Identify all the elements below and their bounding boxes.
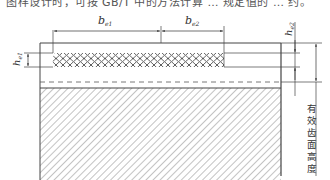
label-he2: he2 — [283, 22, 295, 36]
label-be1: be1 — [98, 14, 112, 27]
effective-height-dimension: 有效齿面高度 — [306, 44, 317, 176]
height-dimension-he2: he2 — [224, 22, 322, 96]
tooth-body-hatched — [40, 88, 281, 180]
label-he1: he1 — [11, 52, 23, 66]
height-dimension-he1: he1 — [11, 52, 53, 67]
label-be2: be2 — [185, 14, 200, 27]
contact-pattern-band — [53, 53, 225, 67]
label-effective-height: 有效齿面高度 — [306, 103, 317, 176]
contact-pattern-diagram: be1 be2 he1 he2 有效齿面高度 — [0, 0, 330, 180]
